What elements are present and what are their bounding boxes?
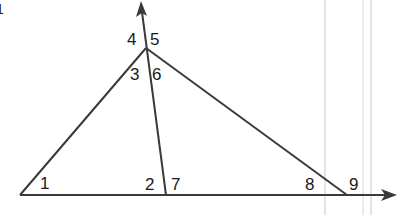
angle-label-5: 5	[150, 30, 159, 49]
angle-label-3: 3	[130, 65, 139, 84]
geometry-diagram: 1 1 2 3 4 5 6 7 8 9	[0, 0, 397, 215]
angle-label-7: 7	[171, 175, 180, 194]
angle-label-4: 4	[127, 30, 136, 49]
left-side	[20, 48, 146, 195]
angle-label-8: 8	[305, 175, 314, 194]
corner-mark: 1	[0, 1, 4, 17]
angle-label-9: 9	[349, 175, 358, 194]
angle-label-2: 2	[145, 175, 154, 194]
angle-label-6: 6	[152, 65, 161, 84]
right-side	[146, 48, 347, 195]
diagram-svg: 1 1 2 3 4 5 6 7 8 9	[0, 0, 397, 215]
angle-label-1: 1	[40, 174, 49, 193]
